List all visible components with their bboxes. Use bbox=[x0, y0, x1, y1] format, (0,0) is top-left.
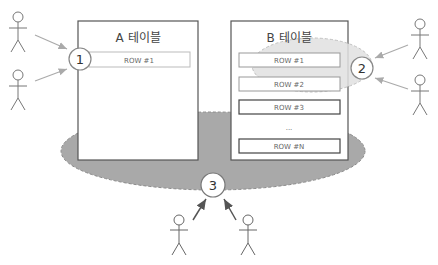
actor-icon bbox=[170, 215, 188, 255]
actor-icon bbox=[239, 215, 257, 255]
table-b-row-n: ROW #N bbox=[239, 139, 340, 153]
actor-icon bbox=[9, 70, 27, 110]
svg-text:3: 3 bbox=[209, 178, 217, 193]
table-a-row-1: ROW #1 bbox=[89, 52, 190, 67]
table-b-ellipsis: ... bbox=[286, 124, 293, 132]
table-b-title: B 테이블 bbox=[266, 31, 311, 45]
svg-text:1: 1 bbox=[76, 52, 84, 67]
table-b-row-2: ROW #2 bbox=[239, 77, 340, 91]
actor-icon bbox=[411, 19, 429, 59]
actor-icon bbox=[9, 12, 27, 52]
svg-text:ROW #3: ROW #3 bbox=[274, 104, 304, 112]
badge-3: 3 bbox=[201, 173, 225, 197]
table-a: A 테이블 ROW #1 bbox=[78, 21, 198, 160]
badge-1: 1 bbox=[69, 48, 91, 70]
table-a-title: A 테이블 bbox=[115, 31, 160, 45]
table-b-row-1: ROW #1 bbox=[239, 53, 340, 67]
badge-2: 2 bbox=[351, 57, 373, 79]
arrow-actor1-to-badge1 bbox=[35, 35, 67, 49]
svg-text:ROW #1: ROW #1 bbox=[274, 57, 304, 65]
arrow-actor2-to-badge1 bbox=[35, 69, 67, 81]
arrow-actor4-to-badge2 bbox=[375, 78, 408, 89]
arrow-actor5-to-badge3 bbox=[193, 199, 206, 220]
svg-text:ROW #1: ROW #1 bbox=[124, 57, 154, 65]
actor-icon bbox=[411, 75, 429, 115]
arrow-actor6-to-badge3 bbox=[224, 199, 236, 220]
svg-text:2: 2 bbox=[358, 61, 366, 76]
diagram-canvas: A 테이블 ROW #1 B 테이블 ROW #1 ROW #2 ROW #3 … bbox=[0, 0, 438, 265]
svg-text:ROW #N: ROW #N bbox=[274, 143, 305, 151]
table-b-row-3: ROW #3 bbox=[239, 100, 340, 114]
svg-text:ROW #2: ROW #2 bbox=[274, 81, 304, 89]
arrow-actor3-to-badge2 bbox=[375, 45, 408, 58]
